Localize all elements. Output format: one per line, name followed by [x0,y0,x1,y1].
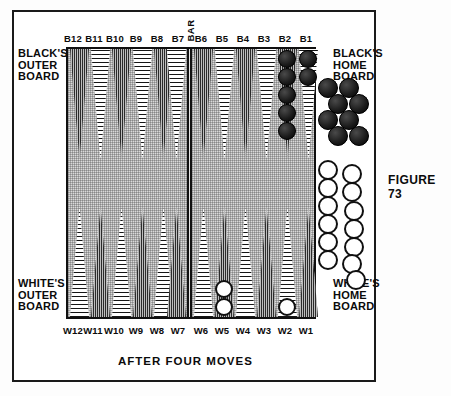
point-triangle [257,49,276,159]
point-b4[interactable] [236,49,255,159]
checker-black-b2-4[interactable] [278,104,296,122]
tray-checker-white-6[interactable] [344,201,364,221]
tray-checker-white-5[interactable] [318,196,338,216]
tray-checker-white-2[interactable] [342,164,362,184]
point-triangle [194,207,213,317]
checker-black-b2-3[interactable] [278,86,296,104]
point-w9[interactable] [133,207,152,317]
label-blacks-home-line-1: BLACK'S [333,48,383,60]
point-w6[interactable] [194,207,213,317]
checker-black-b1-1[interactable] [299,50,317,68]
point-b11[interactable] [91,49,110,159]
tray-white-borne-off[interactable] [318,160,374,280]
point-triangle [215,49,234,159]
tray-checker-black-7[interactable] [328,126,348,146]
tray-checker-white-11[interactable] [318,250,338,270]
point-triangle [236,207,255,317]
point-triangle [112,207,131,317]
figure-root: B12 B11 B10 B9 B8 B7 B6 B5 B4 B3 B2 B1 B… [0,0,451,396]
point-b3[interactable] [257,49,276,159]
tray-black-borne-off[interactable] [318,78,374,154]
point-w3[interactable] [257,207,276,317]
point-label-w1: W1 [293,325,319,336]
point-triangle [299,207,318,317]
point-triangle [257,207,276,317]
point-triangle [133,49,152,159]
point-b7[interactable] [167,49,186,159]
checker-white-w2-1[interactable] [278,298,296,316]
point-triangle [112,49,131,159]
backgammon-board[interactable] [66,47,316,319]
point-triangle [236,49,255,159]
tray-checker-white-1[interactable] [318,160,338,180]
point-b9[interactable] [133,49,152,159]
point-triangle [167,49,186,159]
point-b10[interactable] [112,49,131,159]
checker-black-b2-1[interactable] [278,50,296,68]
point-triangle [70,49,89,159]
label-whites-outer-line-3: BOARD [18,301,65,313]
point-w4[interactable] [236,207,255,317]
point-triangle [167,207,186,317]
tray-checker-white-9[interactable] [318,232,338,252]
point-w7[interactable] [167,207,186,317]
board-bar[interactable] [187,49,192,317]
figure-caption: AFTER FOUR MOVES [118,355,253,367]
tray-checker-white-8[interactable] [344,219,364,239]
label-blacks-outer-line-3: BOARD [18,71,68,83]
tray-checker-white-7[interactable] [318,214,338,234]
checker-white-w5-2[interactable] [215,280,233,298]
point-triangle [91,207,110,317]
label-whites-home-line-3: BOARD [333,301,380,313]
point-triangle [70,207,89,317]
checker-black-b1-2[interactable] [299,68,317,86]
point-w12[interactable] [70,207,89,317]
point-triangle [194,49,213,159]
tray-checker-white-4[interactable] [342,182,362,202]
point-b12[interactable] [70,49,89,159]
checker-black-b2-5[interactable] [278,122,296,140]
tray-checker-black-8[interactable] [349,126,369,146]
bar-label: BAR [185,18,196,44]
label-whites-outer-board: WHITE'S OUTER BOARD [18,278,65,313]
point-b5[interactable] [215,49,234,159]
label-blacks-outer-line-1: BLACK'S [18,48,68,60]
point-b6[interactable] [194,49,213,159]
point-triangle [133,207,152,317]
point-w11[interactable] [91,207,110,317]
label-blacks-outer-board: BLACK'S OUTER BOARD [18,48,68,83]
label-whites-outer-line-1: WHITE'S [18,278,65,290]
point-w10[interactable] [112,207,131,317]
checker-white-w5-1[interactable] [215,298,233,316]
point-label-b1: B1 [293,33,319,44]
checker-black-b2-2[interactable] [278,68,296,86]
point-triangle [91,49,110,159]
tray-checker-white-13[interactable] [346,270,366,290]
figure-number: FIGURE 73 [388,173,451,201]
tray-checker-white-3[interactable] [318,178,338,198]
point-w1[interactable] [299,207,318,317]
